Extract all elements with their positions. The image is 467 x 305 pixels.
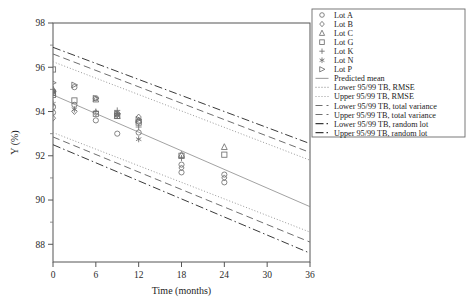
x-tick-label: 30 <box>262 270 272 280</box>
legend-item-label: Lower 95/99 TB, RMSE <box>334 83 415 92</box>
legend-item[interactable]: Lot A <box>320 11 353 20</box>
legend-item-label: Lot A <box>334 11 353 20</box>
x-tick-label: 36 <box>305 270 315 280</box>
legend-item[interactable]: Lot G <box>320 38 354 47</box>
legend-item[interactable]: Lot K <box>319 47 353 56</box>
y-tick-label: 88 <box>36 240 46 250</box>
data-point-diamond <box>320 21 325 26</box>
legend-item[interactable]: Predicted mean <box>316 74 385 83</box>
tolerance-band-line <box>53 62 310 160</box>
legend-item-label: Lot N <box>334 56 353 65</box>
legend-item[interactable]: Lot N <box>320 56 354 65</box>
x-tick-label: 18 <box>177 270 187 280</box>
legend-item-label: Predicted mean <box>334 74 385 83</box>
tolerance-band-line <box>53 133 310 233</box>
legend-item-label: Upper 95/99 TB, RMSE <box>334 92 414 101</box>
x-tick-label: 6 <box>93 270 98 280</box>
tolerance-band-line <box>53 47 310 143</box>
chart-figure: 889092949698061218243036Time (months)Y (… <box>0 0 467 305</box>
series-lot-g <box>50 67 227 159</box>
y-tick-label: 90 <box>36 195 46 205</box>
legend-item-label: Lot B <box>334 20 353 29</box>
legend-item[interactable]: Lower 95/99 TB, total variance <box>316 102 438 111</box>
legend-item-label: Lot K <box>334 47 353 56</box>
tolerance-band-line <box>53 54 310 152</box>
data-point-square <box>222 152 227 157</box>
y-tick-label: 96 <box>36 63 46 73</box>
data-point-circle <box>320 13 325 18</box>
series-lot-k <box>50 89 185 161</box>
legend-item-label: Lower 95/99 TB, total variance <box>334 102 437 111</box>
legend-item[interactable]: Lot P <box>320 65 353 74</box>
scatter-plot-svg: 889092949698061218243036Time (months)Y (… <box>0 0 467 305</box>
x-tick-label: 12 <box>134 270 144 280</box>
data-point-triangle-right <box>320 67 325 72</box>
data-point-square <box>320 40 325 45</box>
legend-item[interactable]: Lower 95/99 TB, random lot <box>316 120 429 129</box>
x-tick-label: 24 <box>220 270 230 280</box>
data-point-triangle-up <box>319 30 324 35</box>
data-point-triangle-up <box>221 144 227 150</box>
legend-item-label: Lot C <box>334 29 353 38</box>
legend-item[interactable]: Upper 95/99 TB, RMSE <box>316 92 414 101</box>
legend-item[interactable]: Upper 95/99 TB, total variance <box>316 111 437 120</box>
series-lot-n <box>50 101 141 143</box>
legend-item-label: Lower 95/99 TB, random lot <box>334 120 429 129</box>
y-tick-label: 94 <box>36 107 46 117</box>
legend-item[interactable]: Lot C <box>319 29 353 38</box>
plot-content <box>50 47 310 253</box>
legend: Lot ALot BLot CLot GLot KLot NLot PPredi… <box>316 11 438 138</box>
x-tick-label: 0 <box>51 270 56 280</box>
legend-item-label: Lot P <box>334 65 352 74</box>
legend-item-label: Upper 95/99 TB, random lot <box>334 129 428 138</box>
y-tick-label: 98 <box>36 18 46 28</box>
y-tick-label: 92 <box>36 151 46 161</box>
legend-item[interactable]: Lot B <box>320 20 354 29</box>
x-axis-label: Time (months) <box>152 285 211 297</box>
legend-item-label: Upper 95/99 TB, total variance <box>334 111 436 120</box>
legend-item[interactable]: Upper 95/99 TB, random lot <box>316 129 429 138</box>
data-point-circle <box>115 131 120 136</box>
legend-item-label: Lot G <box>334 38 353 47</box>
data-point-circle <box>93 118 98 123</box>
legend-item[interactable]: Lower 95/99 TB, RMSE <box>316 83 415 92</box>
y-axis-label: Y (%) <box>9 130 21 154</box>
